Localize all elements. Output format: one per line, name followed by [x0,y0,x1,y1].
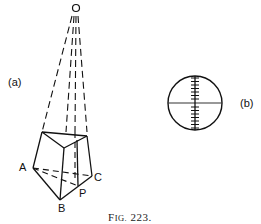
vertex-label-c: C [94,172,102,183]
projection-rays [42,16,87,132]
caption-smallcaps: IG. [115,213,128,223]
figure-drawing [0,0,261,224]
vertex-label-a: A [19,162,26,173]
figure-canvas: O (a) (b) A C P B FIG. 223. [0,0,261,224]
panel-a-label: (a) [8,77,21,88]
vertex-label-p: P [79,188,86,199]
vertex-label-b: B [58,203,65,214]
panel-b-label: (b) [240,98,253,109]
reticle [168,76,222,130]
figure-caption: FIG. 223. [108,211,152,223]
caption-number: 223. [130,211,151,223]
caption-prefix: F [108,211,115,223]
apex-point-o [73,5,80,12]
